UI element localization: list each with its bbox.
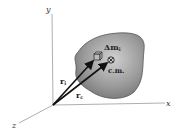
y-axis (52, 14, 53, 105)
z-axis-label: z (11, 121, 17, 130)
diagram-canvas: y x z Δmi c.m. ri rc (0, 0, 184, 133)
mass-element-label: Δmi (104, 42, 121, 52)
x-axis (53, 103, 165, 105)
x-axis-label: x (166, 99, 171, 108)
center-of-mass-label: c.m. (108, 66, 125, 75)
vector-rc-label: rc (76, 90, 83, 100)
vector-ri-label: ri (60, 76, 66, 86)
mass-element-cube-icon (94, 52, 102, 60)
center-of-mass-diagram: y x z Δmi c.m. ri rc (0, 0, 184, 133)
y-axis-label: y (45, 5, 51, 14)
z-axis (19, 105, 53, 123)
